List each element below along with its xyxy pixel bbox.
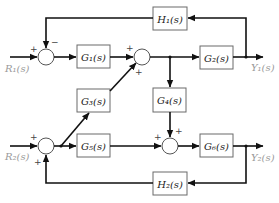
output-y2-label: Y₂(s) bbox=[251, 152, 275, 163]
block-g2-label: G₂(s) bbox=[204, 53, 229, 64]
sum3-sign-left: + bbox=[30, 132, 38, 142]
input-r1-label: R₁(s) bbox=[4, 63, 30, 74]
sum4-sign-left: + bbox=[154, 132, 162, 142]
block-g5-label: G₅(s) bbox=[81, 141, 106, 152]
sum1-sign-top: − bbox=[51, 37, 59, 47]
block-g1-label: G₁(s) bbox=[81, 52, 106, 63]
h1-to-s1-line bbox=[46, 18, 153, 48]
block-diagram: R₁(s) + − G₁(s) + + G₂(s) Y₁(s) H₁(s) G₃… bbox=[0, 0, 279, 203]
summing-junction-4 bbox=[162, 138, 178, 154]
sum4-sign-top: + bbox=[175, 126, 183, 136]
sum2-sign-left: + bbox=[126, 43, 134, 53]
block-h1-label: H₁(s) bbox=[156, 14, 183, 25]
summing-junction-1 bbox=[38, 49, 54, 65]
g3-to-s2-line bbox=[110, 63, 136, 91]
block-g3-label: G₃(s) bbox=[81, 96, 106, 107]
summing-junction-2 bbox=[134, 49, 150, 65]
sum1-sign-left: + bbox=[30, 44, 38, 54]
output-y1-label: Y₁(s) bbox=[251, 62, 275, 73]
block-h2-label: H₂(s) bbox=[156, 179, 183, 190]
block-g6-label: G₆(s) bbox=[204, 141, 229, 152]
summing-junction-3 bbox=[38, 138, 54, 154]
sum3-sign-bottom: + bbox=[34, 157, 42, 167]
h2-to-s3-line bbox=[46, 155, 153, 183]
sum2-sign-bottom: + bbox=[135, 67, 143, 77]
block-g4-label: G₄(s) bbox=[157, 95, 182, 106]
input-r2-label: R₂(s) bbox=[4, 151, 30, 162]
